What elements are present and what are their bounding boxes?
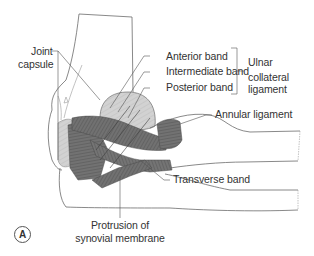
label-transverse-band: Transverse band (173, 173, 250, 186)
forearm-middle-outline (170, 161, 298, 168)
label-intermediate-band: Intermediate band (166, 65, 249, 78)
label-joint-capsule-2: capsule (18, 58, 54, 71)
label-ucl-3: ligament (248, 83, 287, 96)
forearm-end (298, 131, 300, 210)
label-anterior-band: Anterior band (166, 50, 228, 63)
panel-label-badge: A (14, 226, 31, 243)
label-protrusion-2: synovial membrane (70, 232, 170, 245)
capsule-inner-lines (58, 65, 82, 120)
label-posterior-band: Posterior band (166, 81, 233, 94)
label-protrusion-1: Protrusion of (80, 219, 160, 232)
label-joint-capsule-1: Joint (31, 45, 53, 58)
leader-annular-ligament (180, 115, 212, 124)
label-ucl-1: Ulnar (248, 56, 273, 69)
elbow-ligament-diagram (0, 0, 314, 256)
label-annular-ligament: Annular ligament (215, 108, 292, 121)
annular-ligament-shape (157, 119, 182, 149)
